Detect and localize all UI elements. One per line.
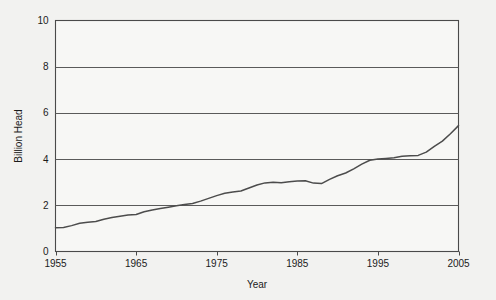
y-tick-label: 6 bbox=[43, 107, 49, 118]
x-tick-label: 1975 bbox=[206, 258, 229, 269]
chart-container: 0246810 195519651975198519952005 Billion… bbox=[0, 0, 496, 300]
line-chart: 0246810 195519651975198519952005 Billion… bbox=[0, 0, 496, 300]
y-axis-title: Billion Head bbox=[13, 109, 24, 162]
x-tick-label: 1955 bbox=[44, 258, 67, 269]
y-tick-label: 0 bbox=[43, 246, 49, 257]
x-tick-label: 1995 bbox=[367, 258, 390, 269]
x-tick-label: 2005 bbox=[447, 258, 470, 269]
x-tick-label: 1965 bbox=[125, 258, 148, 269]
y-tick-label: 10 bbox=[37, 15, 49, 26]
x-tick-label: 1985 bbox=[286, 258, 309, 269]
y-tick-label: 8 bbox=[43, 61, 49, 72]
x-axis-title: Year bbox=[247, 279, 268, 290]
y-tick-label: 2 bbox=[43, 200, 49, 211]
y-tick-label: 4 bbox=[43, 154, 49, 165]
